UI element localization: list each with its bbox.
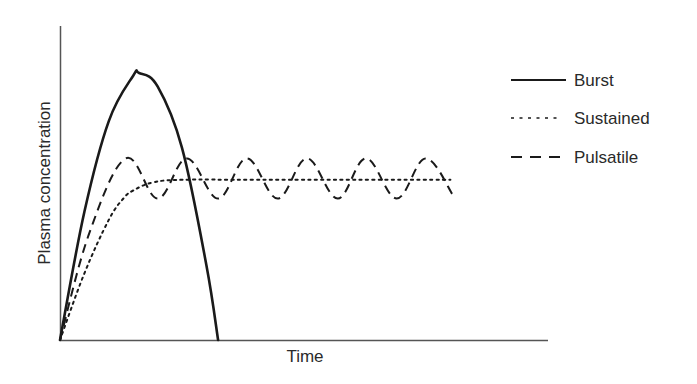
legend: Burst Sustained Pulsatile (511, 71, 650, 167)
legend-label: Pulsatile (574, 148, 638, 167)
y-axis-label: Plasma concentration (35, 101, 54, 264)
series-burst (60, 70, 218, 340)
series-layer (60, 70, 453, 340)
series-sustained (60, 180, 450, 340)
legend-item-sustained: Sustained (511, 109, 650, 128)
chart-canvas: Time Plasma concentration Burst Sustaine… (0, 0, 697, 384)
legend-item-pulsatile: Pulsatile (511, 148, 638, 167)
legend-label: Burst (574, 71, 614, 90)
series-pulsatile (60, 158, 453, 340)
legend-item-burst: Burst (511, 71, 614, 90)
legend-label: Sustained (574, 109, 650, 128)
x-axis-label: Time (286, 347, 323, 366)
